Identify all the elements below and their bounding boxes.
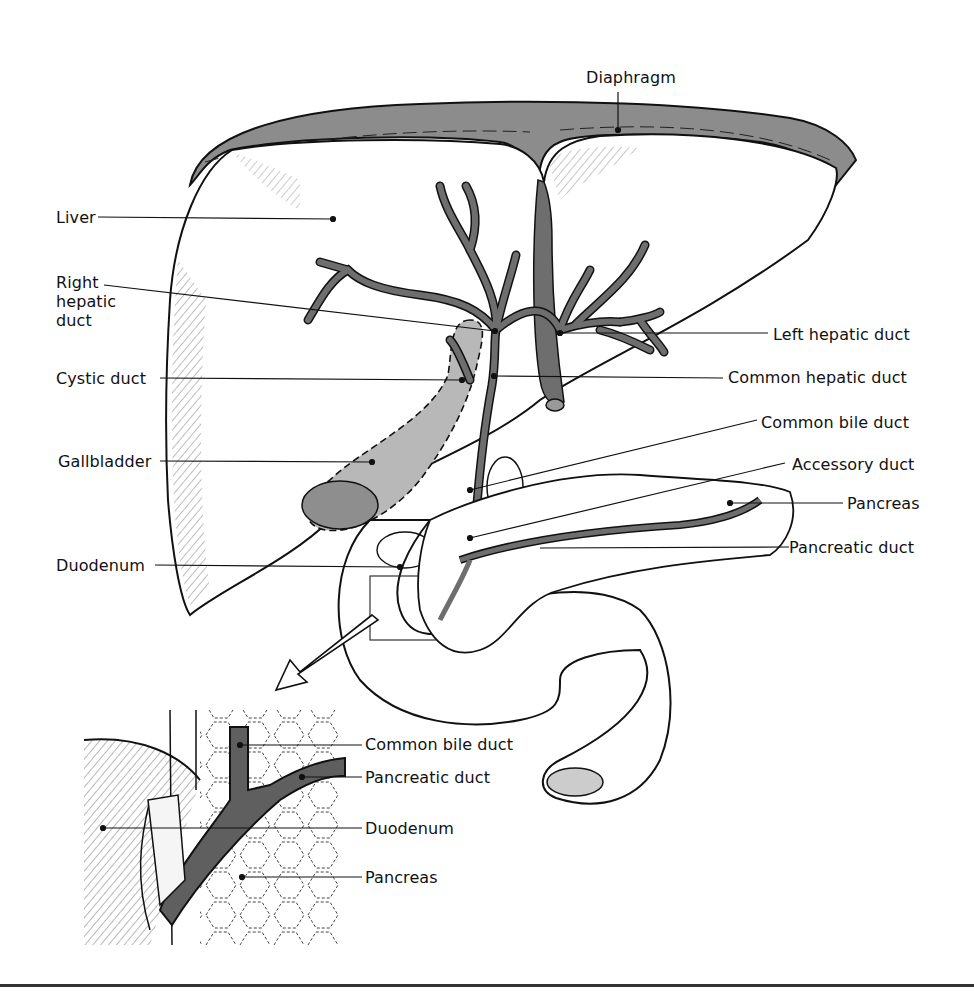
label-cystic-duct: Cystic duct [56, 369, 146, 388]
label-common-hepatic-duct: Common hepatic duct [728, 368, 907, 387]
inset-label-duodenum: Duodenum [365, 819, 454, 838]
label-pancreas: Pancreas [847, 494, 920, 513]
inset-label-pancreatic-duct: Pancreatic duct [365, 768, 490, 787]
label-right-hepatic-duct-line1: Right [56, 273, 99, 292]
label-liver: Liver [56, 208, 96, 227]
label-duodenum: Duodenum [56, 556, 145, 575]
biliary-anatomy-diagram: Diaphragm Liver Right hepatic duct Cysti… [0, 0, 974, 999]
label-diaphragm: Diaphragm [586, 68, 676, 87]
bottom-divider [0, 984, 974, 987]
label-left-hepatic-duct: Left hepatic duct [773, 325, 910, 344]
label-right-hepatic-duct-line3: duct [56, 311, 92, 330]
label-common-bile-duct: Common bile duct [761, 413, 909, 432]
inset-label-pancreas: Pancreas [365, 868, 438, 887]
diagram-artwork [0, 0, 974, 999]
inset-label-common-bile-duct: Common bile duct [365, 735, 513, 754]
label-right-hepatic-duct-line2: hepatic [56, 292, 116, 311]
label-pancreatic-duct: Pancreatic duct [789, 538, 914, 557]
label-accessory-duct: Accessory duct [792, 455, 914, 474]
label-gallbladder: Gallbladder [58, 452, 151, 471]
